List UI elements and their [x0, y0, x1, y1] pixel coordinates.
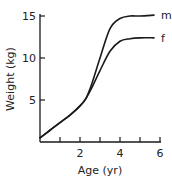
series-line-f — [40, 38, 154, 138]
series-label-f: f — [161, 32, 166, 45]
series-lines — [40, 15, 154, 138]
y-axis-title: Weight (kg) — [4, 47, 17, 111]
axes — [40, 14, 161, 142]
x-tick-label: 4 — [117, 147, 124, 160]
x-tick-label: 2 — [77, 147, 84, 160]
series-label-m: m — [161, 9, 172, 22]
y-tick-label: 10 — [22, 52, 36, 65]
y-tick-label: 15 — [22, 10, 36, 23]
x-tick-label: 6 — [157, 147, 164, 160]
y-tick-label: 5 — [29, 94, 36, 107]
growth-chart: 51015246Age (yr)Weight (kg)mf — [0, 0, 172, 182]
x-axis-title: Age (yr) — [78, 164, 122, 177]
